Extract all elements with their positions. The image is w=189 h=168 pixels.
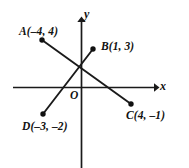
point-marker-d: [40, 111, 45, 116]
point-marker-c: [128, 101, 133, 106]
coordinate-plane-figure: A(–4, 4) B(1, 3) C(4, –1) D(–3, –2) x y …: [0, 0, 189, 168]
origin-label: O: [70, 90, 78, 102]
x-axis-label: x: [160, 80, 166, 92]
point-marker-a: [39, 37, 44, 42]
x-axis-arrow-icon: [154, 83, 160, 91]
point-label-d: D(–3, –2): [22, 121, 68, 133]
point-label-c: C(4, –1): [126, 110, 165, 122]
point-label-b: B(1, 3): [101, 41, 134, 53]
point-marker-b: [90, 46, 95, 51]
y-axis-label: y: [84, 8, 89, 20]
point-label-a: A(–4, 4): [19, 26, 58, 38]
